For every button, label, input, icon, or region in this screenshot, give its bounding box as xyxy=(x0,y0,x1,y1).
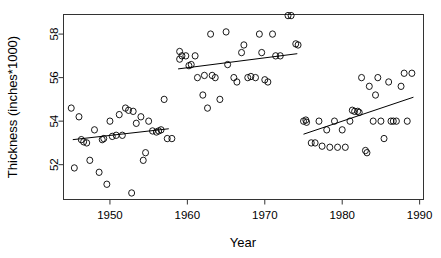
data-point xyxy=(335,144,341,150)
y-axis-tick-labels: 52545658 xyxy=(49,28,61,171)
data-point xyxy=(319,143,325,149)
chart-figure: 19501960197019801990 52545658 Year Thick… xyxy=(0,0,441,258)
data-point xyxy=(381,135,387,141)
trend-lines-layer xyxy=(73,54,414,140)
data-point xyxy=(208,31,214,37)
data-point xyxy=(140,157,146,163)
data-points-layer xyxy=(68,12,415,196)
data-point xyxy=(373,92,379,98)
y-tick-label: 54 xyxy=(49,114,61,127)
data-point xyxy=(378,118,384,124)
data-point xyxy=(370,118,376,124)
data-point xyxy=(223,29,229,35)
y-tick-label: 52 xyxy=(49,158,61,171)
data-point xyxy=(119,132,125,138)
y-tick-label: 56 xyxy=(49,71,61,84)
data-point xyxy=(256,31,262,37)
trend-period-2 xyxy=(178,54,297,69)
data-point xyxy=(366,83,372,89)
data-point xyxy=(339,127,345,133)
x-axis-tick-labels: 19501960197019801990 xyxy=(97,209,432,221)
data-point xyxy=(241,42,247,48)
data-point xyxy=(71,165,77,171)
data-point xyxy=(146,118,152,124)
data-point xyxy=(109,133,115,139)
data-point xyxy=(362,147,368,153)
data-point xyxy=(295,42,301,48)
data-point xyxy=(129,190,135,196)
data-point xyxy=(161,96,167,102)
data-point xyxy=(231,74,237,80)
x-tick-label: 1950 xyxy=(97,209,123,221)
plot-frame xyxy=(64,15,424,200)
data-point xyxy=(194,74,200,80)
scatter-plot-svg: 19501960197019801990 52545658 Year Thick… xyxy=(0,0,441,258)
data-point xyxy=(96,169,102,175)
x-tick-label: 1990 xyxy=(407,209,433,221)
data-point xyxy=(133,120,139,126)
data-point xyxy=(312,140,318,146)
x-axis-ticks xyxy=(110,200,420,205)
data-point xyxy=(116,111,122,117)
data-point xyxy=(270,31,276,37)
data-point xyxy=(386,79,392,85)
data-point xyxy=(143,150,149,156)
data-point xyxy=(342,144,348,150)
x-tick-label: 1970 xyxy=(252,209,278,221)
data-point xyxy=(192,53,198,59)
data-point xyxy=(398,83,404,89)
trend-period-3 xyxy=(304,97,414,134)
x-tick-label: 1980 xyxy=(329,209,355,221)
data-point xyxy=(239,49,245,55)
y-axis-title: Thickness (inches*1000) xyxy=(5,36,20,178)
data-point xyxy=(201,72,207,78)
data-point xyxy=(87,157,93,163)
y-axis-ticks xyxy=(59,34,64,165)
data-point xyxy=(138,114,144,120)
data-point xyxy=(259,49,265,55)
data-point xyxy=(234,79,240,85)
x-axis-title: Year xyxy=(230,235,257,250)
data-point xyxy=(375,74,381,80)
data-point xyxy=(205,105,211,111)
data-point xyxy=(183,53,189,59)
series-period-3 xyxy=(301,70,415,156)
data-point xyxy=(107,118,113,124)
data-point xyxy=(401,70,407,76)
data-point xyxy=(359,74,365,80)
data-point xyxy=(76,114,82,120)
data-point xyxy=(327,144,333,150)
data-point xyxy=(68,105,74,111)
series-period-1 xyxy=(68,96,175,196)
data-point xyxy=(404,118,410,124)
series-period-2 xyxy=(177,12,301,111)
data-point xyxy=(409,70,415,76)
x-tick-label: 1960 xyxy=(175,209,201,221)
data-point xyxy=(364,150,370,156)
data-point xyxy=(200,92,206,98)
data-point xyxy=(316,118,322,124)
data-point xyxy=(104,181,110,187)
y-tick-label: 58 xyxy=(49,28,61,41)
data-point xyxy=(217,96,223,102)
data-point xyxy=(91,127,97,133)
